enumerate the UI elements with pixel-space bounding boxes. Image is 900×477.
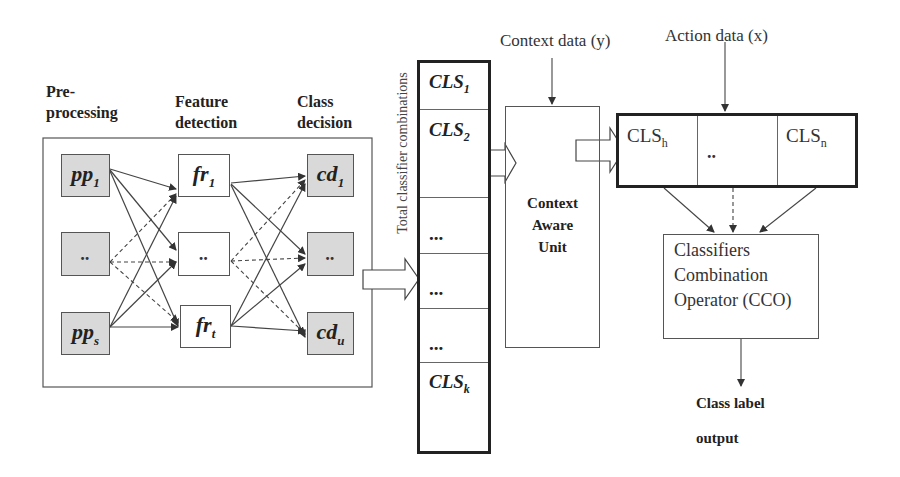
classifier-combination-diagram: Pre- processing Feature detection Class … bbox=[0, 0, 900, 477]
feature-node-frt: frt bbox=[180, 305, 231, 348]
context-aware-unit-line2: Aware bbox=[505, 218, 600, 233]
selected-classifiers-box: CLSh .. CLSn bbox=[616, 113, 858, 188]
total-combinations-label: Total classifier combinations bbox=[396, 60, 410, 246]
cls-divider bbox=[420, 197, 488, 198]
cco-line1: Classifiers bbox=[674, 241, 750, 259]
preprocessing-heading-1: Pre- bbox=[46, 84, 75, 100]
cls-cell-ellipsis-2: ... bbox=[420, 278, 488, 300]
feature-node-fr1: fr1 bbox=[178, 154, 230, 197]
context-aware-unit-line3: Unit bbox=[505, 240, 600, 255]
clsh-to-cco-arrow bbox=[664, 188, 714, 232]
cls-cell-ellipsis-1: ... bbox=[420, 223, 488, 245]
pp-to-fr-arrows bbox=[110, 169, 178, 327]
selected-classifier-ellipsis: .. bbox=[697, 116, 778, 185]
cls-divider bbox=[420, 253, 488, 254]
output-label-line2: output bbox=[696, 431, 739, 446]
classifier-column: CLS1 CLS2 ... ... ... CLSk bbox=[417, 60, 491, 454]
cls-divider bbox=[420, 362, 488, 363]
cls-cell-k: CLSk bbox=[420, 371, 488, 397]
fr-to-cd-arrows bbox=[231, 176, 305, 337]
cco-box: Classifiers Combination Operator (CCO) bbox=[663, 234, 819, 339]
context-data-label: Context data (y) bbox=[500, 32, 610, 49]
clsn-to-cco-arrow bbox=[760, 188, 816, 232]
cco-line2: Combination bbox=[674, 266, 768, 284]
context-aware-unit-line1: Context bbox=[505, 196, 600, 211]
class-decision-heading-1: Class bbox=[297, 94, 333, 110]
cco-line3: Operator (CCO) bbox=[674, 291, 791, 309]
decision-node-cdu: cdu bbox=[307, 312, 354, 355]
cls-cell-1: CLS1 bbox=[420, 71, 488, 97]
cls-cell-ellipsis-3: ... bbox=[420, 333, 488, 355]
action-data-label: Action data (x) bbox=[665, 27, 768, 44]
preprocessing-heading-2: processing bbox=[46, 105, 118, 121]
feature-heading-2: detection bbox=[175, 115, 237, 131]
preprocessing-node-pp1: pp1 bbox=[61, 154, 110, 197]
preprocessing-node-pps: pps bbox=[61, 312, 110, 355]
class-decision-heading-2: decision bbox=[297, 115, 352, 131]
feature-heading-1: Feature bbox=[175, 94, 228, 110]
preprocessing-node-ellipsis: .. bbox=[61, 232, 110, 276]
output-label-line1: Class label bbox=[696, 396, 765, 411]
cls-divider bbox=[420, 109, 488, 110]
decision-node-cd1: cd1 bbox=[307, 154, 354, 197]
selected-classifier-h: CLSh bbox=[619, 116, 698, 185]
cls-divider bbox=[420, 308, 488, 309]
fr-mid-dashed-arrows bbox=[231, 180, 305, 334]
cls-cell-2: CLS2 bbox=[420, 119, 488, 145]
decision-node-ellipsis: .. bbox=[307, 232, 354, 276]
feature-node-ellipsis: .. bbox=[178, 232, 230, 276]
selected-classifier-n: CLSn bbox=[777, 116, 855, 185]
